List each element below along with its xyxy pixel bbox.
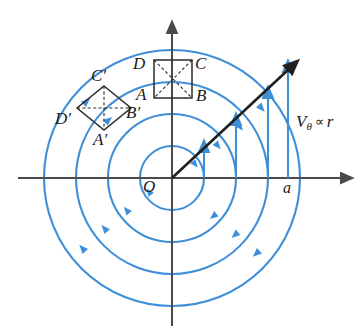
diagram-canvas bbox=[0, 0, 363, 334]
vertex-label-a: A bbox=[136, 86, 146, 103]
origin-label: O bbox=[143, 178, 155, 195]
vertex-label-c: C bbox=[195, 55, 206, 72]
axes-group bbox=[18, 32, 342, 326]
vertex-label-d: D bbox=[133, 55, 145, 72]
flow-arrow-r2-lr bbox=[210, 211, 219, 219]
radius-variable: r bbox=[327, 112, 334, 131]
square-element-abcd-prime bbox=[77, 86, 131, 130]
x-axis-label: a bbox=[283, 180, 291, 196]
flow-arrow-r2-ur bbox=[213, 141, 221, 150]
velocity-symbol: V bbox=[296, 112, 306, 131]
flow-arrow-r2-ll bbox=[124, 207, 132, 216]
velocity-field-diagram: O a D C A B C′ D′ B′ A′ Vθ∝r bbox=[0, 0, 363, 334]
vertex-label-b-prime: B′ bbox=[126, 104, 140, 121]
proportional-icon: ∝ bbox=[312, 114, 327, 129]
velocity-vector-group bbox=[204, 71, 288, 178]
flow-arrow-r4-ur bbox=[256, 103, 265, 112]
flow-arrow-r4-ll bbox=[79, 245, 88, 254]
flow-arrow-r4-lr bbox=[253, 248, 262, 257]
flow-arrow-r3-lr bbox=[232, 230, 241, 238]
flow-arrow-r3-l bbox=[102, 225, 110, 234]
vertex-label-d-prime: D′ bbox=[55, 110, 71, 127]
vertex-label-c-prime: C′ bbox=[91, 67, 106, 84]
vertex-label-b: B bbox=[196, 87, 206, 104]
vertex-label-a-prime: A′ bbox=[93, 131, 107, 148]
velocity-subscript: θ bbox=[306, 120, 311, 132]
velocity-profile-line bbox=[172, 69, 289, 178]
velocity-relation-label: Vθ∝r bbox=[296, 113, 333, 132]
